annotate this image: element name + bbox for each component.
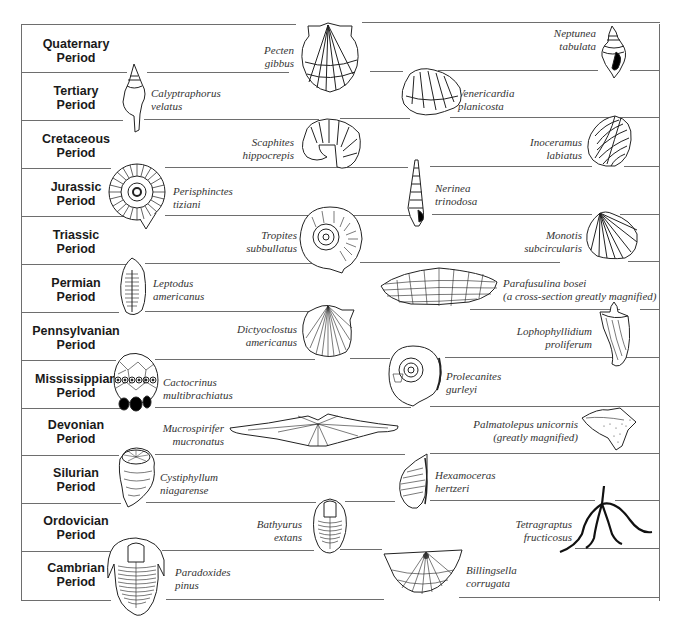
brachiopod-icon xyxy=(298,304,356,360)
divider-6 xyxy=(21,312,119,313)
ammonite-icon xyxy=(108,163,168,231)
tower-snail-icon xyxy=(405,158,427,228)
fossil-label-perisphinctes-tiziani: Perisphinctestiziani xyxy=(173,185,233,210)
divider-1 xyxy=(630,70,660,71)
whelk-shell-icon xyxy=(598,24,630,80)
fossil-label-lophophyllidium-proliferum: Lophophyllidiumproliferum xyxy=(500,325,592,350)
fossil-label-cactocrinus-multibrachiatus: Cactocrinusmultibrachiatus xyxy=(163,376,233,401)
divider-6 xyxy=(640,309,660,310)
divider-2 xyxy=(21,120,123,121)
divider-7 xyxy=(21,360,116,361)
divider-top xyxy=(362,22,660,23)
period-label-silurian: SilurianPeriod xyxy=(21,466,131,494)
divider-5 xyxy=(628,261,660,262)
fossil-label-scaphites-hippocrepis: Scaphiteshippocrepis xyxy=(210,136,294,161)
graptolite-icon xyxy=(556,484,656,554)
fossil-label-hexamoceras-hertzeri: Hexamocerashertzeri xyxy=(435,469,495,494)
divider-11 xyxy=(162,550,314,551)
divider-3 xyxy=(165,167,408,168)
divider-8 xyxy=(155,407,411,408)
divider-3 xyxy=(21,168,111,169)
divider-2 xyxy=(144,119,319,120)
period-label-pennsylvanian: PennsylvanianPeriod xyxy=(21,324,131,352)
fossil-label-calyptraphorus-velatus: Calyptraphorusvelatus xyxy=(151,87,221,112)
coral-icon xyxy=(116,447,158,509)
divider-1 xyxy=(21,72,127,73)
geologic-fossil-chart: QuaternaryPeriod TertiaryPeriod Cretaceo… xyxy=(0,0,676,624)
fossil-label-leptodus-americanus: Leptodusamericanus xyxy=(153,277,204,302)
hooked-ammonite-icon xyxy=(297,117,363,171)
fossil-label-inoceramus-labiatus: Inoceramuslabiatus xyxy=(500,136,582,161)
fossil-label-dictyoclostus-americanus: Dictyoclostusamericanus xyxy=(200,323,297,348)
fossil-label-bathyurus-extans: Bathyurusextans xyxy=(230,518,302,543)
divider-10 xyxy=(146,502,316,503)
divider-8 xyxy=(21,408,121,409)
divider-7 xyxy=(155,359,315,360)
horn-coral-icon xyxy=(596,300,636,370)
conodont-icon xyxy=(580,406,640,452)
divider-bottom xyxy=(459,597,660,598)
divider-1 xyxy=(370,71,403,72)
period-label-permian: PermianPeriod xyxy=(21,276,131,304)
divider-10 xyxy=(345,501,395,502)
clam-shell-icon xyxy=(400,64,464,120)
period-label-triassic: TriassicPeriod xyxy=(21,228,131,256)
scallop-shell-icon xyxy=(295,22,365,94)
nautiloid-icon xyxy=(395,452,431,512)
winged-brachiopod-icon xyxy=(228,412,402,448)
ammonite-icon xyxy=(298,205,364,275)
fossil-label-monotis-subcircularis: Monotissubcircularis xyxy=(500,229,582,254)
divider-5 xyxy=(21,264,127,265)
fossil-label-venericardia-planicosta: Venericardiaplanicosta xyxy=(458,87,514,112)
brachiopod-icon xyxy=(118,256,148,318)
divider-11 xyxy=(21,551,111,552)
ridged-clam-icon xyxy=(585,114,635,168)
fossil-label-paradoxides-pinus: Paradoxidespinus xyxy=(175,566,231,591)
period-label-quaternary: QuaternaryPeriod xyxy=(21,37,131,65)
period-label-devonian: DevonianPeriod xyxy=(21,418,131,446)
fossil-label-nerinea-trinodosa: Nerineatrinodosa xyxy=(435,182,477,207)
divider-5 xyxy=(145,263,317,264)
divider-4 xyxy=(165,215,410,216)
fossil-label-mucrospirifer-mucronatus: Mucrospirifermucronatus xyxy=(150,422,224,447)
divider-bottom xyxy=(166,599,384,600)
fan-clam-icon xyxy=(583,210,639,260)
period-label-cretaceous: CretaceousPeriod xyxy=(21,132,131,160)
divider-1 xyxy=(147,72,289,73)
fossil-label-parafusulina-bosei: Parafusulina bosei(a cross-section great… xyxy=(503,277,656,302)
divider-10 xyxy=(21,503,121,504)
divider-bottom xyxy=(21,600,111,601)
frame-right-edge xyxy=(659,24,660,601)
fossil-label-neptunea-tabulata: Neptuneatabulata xyxy=(520,27,596,52)
divider-7 xyxy=(635,357,660,358)
crinoid-icon xyxy=(112,352,160,412)
trilobite-icon xyxy=(312,497,348,555)
trilobite-icon xyxy=(106,536,168,618)
fossil-label-tropites-subbullatus: Tropitessubbullatus xyxy=(215,229,297,254)
fusulinid-icon xyxy=(379,264,501,308)
brachiopod-icon xyxy=(382,548,466,596)
divider-5 xyxy=(360,262,560,263)
divider-9 xyxy=(155,454,405,455)
divider-9 xyxy=(21,455,119,456)
divider-7 xyxy=(350,358,390,359)
fossil-label-prolecanites-gurleyi: Prolecanitesgurleyi xyxy=(446,370,501,395)
divider-3 xyxy=(430,166,592,167)
fossil-label-billingsella-corrugata: Billingsellacorrugata xyxy=(466,564,517,589)
fossil-label-pecten-gibbus: Pectengibbus xyxy=(220,44,294,69)
ammonoid-icon xyxy=(387,344,443,408)
fossil-label-cystiphyllum-niagarense: Cystiphyllumniagarense xyxy=(160,471,218,496)
divider-9 xyxy=(430,453,660,454)
period-label-tertiary: TertiaryPeriod xyxy=(21,84,131,112)
divider-top xyxy=(21,24,296,25)
spindle-snail-icon xyxy=(118,62,150,134)
divider-4 xyxy=(432,214,592,215)
fossil-label-palmatolepus-unicornis: Palmatolepus unicornis(greatly magnified… xyxy=(440,418,578,443)
